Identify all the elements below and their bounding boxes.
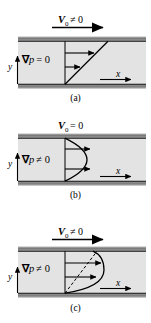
panel-b: V0= 0 ∇p≠ 0 y x (b) — [0, 108, 151, 215]
flow-profiles-figure: V0≠ 0 ∇p= 0 y x (a) — [0, 0, 151, 323]
pressure-gradient-label-a: ∇p= 0 — [21, 54, 50, 65]
panel-caption-c: (c) — [0, 303, 151, 313]
wall-velocity-label-a: V0≠ 0 — [58, 14, 83, 28]
pressure-gradient-label-b: ∇p≠ 0 — [21, 154, 50, 165]
top-wall-c — [18, 247, 146, 252]
panel-caption-b: (b) — [0, 190, 151, 200]
panel-caption-a: (a) — [0, 93, 151, 103]
wall-velocity-label-c: V0≠ 0 — [58, 226, 83, 240]
panel-c: V0≠ 0 ∇p≠ 0 y x (c) — [0, 215, 151, 323]
panel-a: V0≠ 0 ∇p= 0 y x (a) — [0, 0, 151, 108]
x-axis-label-a: x — [115, 69, 121, 79]
y-axis-label-b: y — [7, 159, 13, 169]
x-axis-label-b: x — [115, 166, 121, 176]
top-wall-a — [18, 37, 146, 42]
pressure-gradient-label-c: ∇p≠ 0 — [21, 263, 50, 274]
panel-a-graphic: V0≠ 0 ∇p= 0 y x — [0, 0, 151, 108]
wall-velocity-label-b: V0= 0 — [58, 120, 83, 134]
x-axis-label-c: x — [115, 278, 121, 288]
y-axis-label-c: y — [7, 272, 13, 282]
top-wall-b — [18, 134, 146, 139]
y-axis-label-a: y — [7, 62, 13, 72]
